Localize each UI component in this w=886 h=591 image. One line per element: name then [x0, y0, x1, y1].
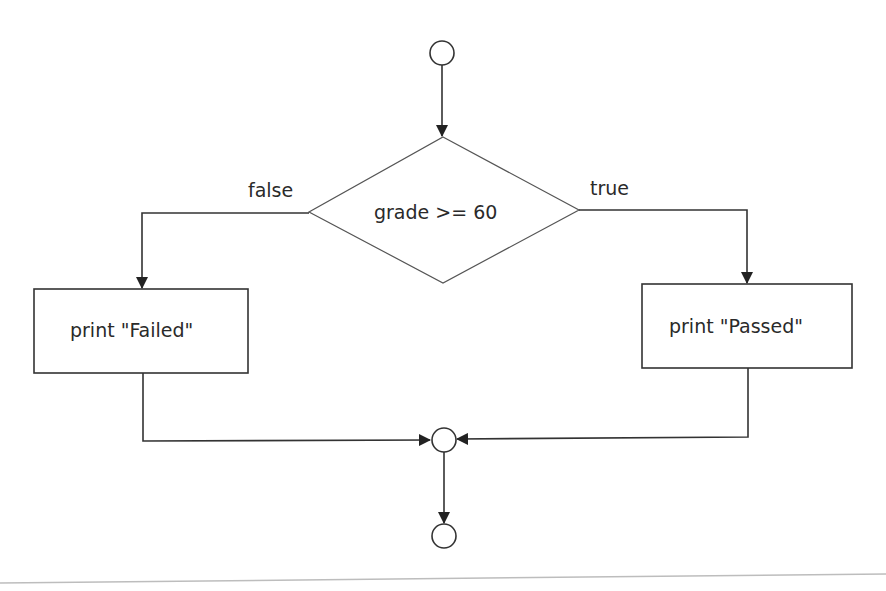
page-edge-line	[0, 574, 886, 583]
edge-passed-merge	[457, 368, 748, 439]
flowchart-canvas	[0, 0, 886, 591]
passed-box-label: print "Passed"	[669, 317, 803, 336]
edge-false-branch	[142, 213, 309, 288]
true-branch-label: true	[590, 179, 629, 198]
decision-label: grade >= 60	[374, 203, 497, 222]
end-node	[432, 524, 456, 548]
edge-true-branch	[579, 210, 747, 283]
false-branch-label: false	[248, 181, 293, 200]
failed-box-label: print "Failed"	[70, 321, 193, 340]
edge-failed-merge	[143, 373, 430, 441]
start-node	[430, 41, 454, 65]
merge-node	[432, 428, 456, 452]
